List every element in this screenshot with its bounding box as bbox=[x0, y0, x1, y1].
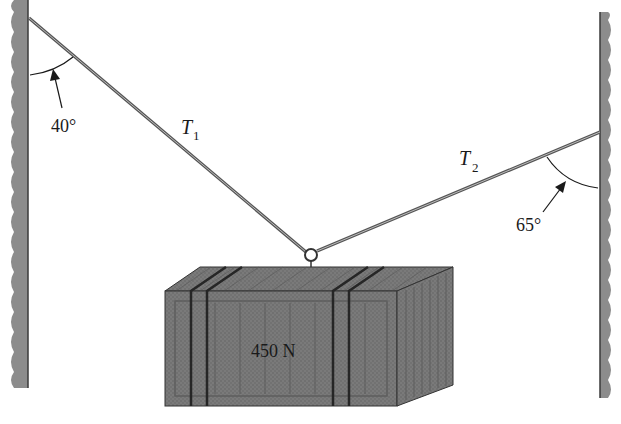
angle-arc-40 bbox=[30, 57, 73, 108]
angle-arc-65 bbox=[543, 157, 598, 212]
tension-label-t2: T 2 bbox=[459, 147, 479, 175]
svg-text:2: 2 bbox=[472, 160, 479, 175]
left-wall bbox=[11, 0, 28, 388]
arrowhead-icon bbox=[50, 69, 60, 81]
crate: 450 N bbox=[165, 267, 453, 406]
equilibrium-diagram: 40° 65° T 1 T 2 bbox=[0, 0, 621, 424]
svg-text:1: 1 bbox=[193, 128, 200, 143]
crate-weight-label: 450 N bbox=[251, 341, 296, 361]
angle-label-65: 65° bbox=[516, 215, 541, 235]
right-wall bbox=[600, 12, 611, 398]
tension-label-t1: T 1 bbox=[181, 116, 200, 143]
angle-label-40: 40° bbox=[51, 116, 76, 136]
svg-text:T: T bbox=[459, 147, 472, 169]
arrowhead-icon bbox=[555, 181, 566, 193]
